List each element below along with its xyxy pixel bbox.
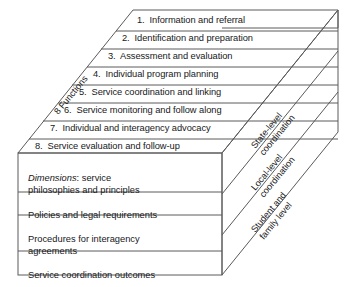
function-label-6: Service monitoring and follow along: [77, 105, 222, 115]
function-row-8: 8. Service evaluation and follow-up: [35, 141, 180, 153]
dimension-text-2: Policies and legal requirements: [28, 210, 157, 220]
dimension-panel-4: Service coordination outcomes: [28, 257, 155, 281]
function-row-4: 4. Individual program planning: [93, 69, 218, 81]
dimension-text-3: Procedures for interagency agreements: [28, 234, 140, 256]
dimension-panel-3: Procedures for interagency agreements: [28, 221, 140, 258]
function-label-3: Assessment and evaluation: [120, 51, 232, 61]
function-label-5: Service coordination and linking: [92, 87, 222, 97]
function-number-2: 2.: [122, 33, 132, 45]
function-number-7: 7.: [50, 123, 60, 135]
function-number-3: 3.: [108, 51, 118, 63]
function-label-1: Information and referral: [150, 15, 245, 25]
function-row-7: 7. Individual and interagency advocacy: [50, 123, 211, 135]
function-label-2: Identification and preparation: [135, 33, 253, 43]
dimension-emphasis-1: Dimensions: [28, 173, 77, 183]
function-label-4: Individual program planning: [106, 69, 219, 79]
function-number-8: 8.: [35, 141, 45, 153]
diagram-canvas: 1. Information and referral 2. Identific…: [0, 0, 352, 287]
right-face-outline: [222, 10, 338, 275]
function-label-7: Individual and interagency advocacy: [63, 123, 211, 133]
function-number-4: 4.: [93, 69, 103, 81]
dimension-panel-1: Dimensions: service philosophies and pri…: [28, 160, 140, 197]
dimension-panel-2: Policies and legal requirements: [28, 197, 157, 221]
function-row-2: 2. Identification and preparation: [122, 33, 253, 45]
dimension-text-4: Service coordination outcomes: [28, 270, 155, 280]
function-row-5: 5. Service coordination and linking: [79, 87, 221, 99]
function-row-3: 3. Assessment and evaluation: [108, 51, 232, 63]
function-number-1: 1.: [137, 15, 147, 27]
function-row-6: 6. Service monitoring and follow along: [64, 105, 222, 117]
function-row-1: 1. Information and referral: [137, 15, 245, 27]
function-label-8: Service evaluation and follow-up: [48, 141, 180, 151]
